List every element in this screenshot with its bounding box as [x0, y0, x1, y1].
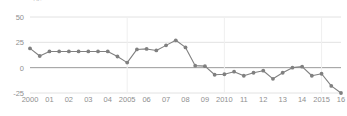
x-tick-label: 2010 [216, 95, 233, 104]
data-point [222, 72, 226, 76]
data-point [320, 72, 324, 76]
data-point [232, 70, 236, 74]
data-point [67, 50, 71, 54]
gridlines [30, 17, 341, 93]
data-point [310, 74, 314, 78]
plot-area [30, 17, 341, 93]
y-axis-labels: 50250-25 [0, 17, 26, 93]
x-axis-labels: 2000010203042005060708092010111213142015… [30, 95, 341, 111]
x-tick-label: 2015 [313, 95, 330, 104]
y-tick-label: 25 [16, 38, 24, 47]
line-chart: году, % 50250-25 20000102030420050607080… [0, 0, 347, 116]
data-point [213, 73, 217, 77]
data-point [271, 77, 275, 81]
data-point [154, 49, 158, 53]
data-point [116, 55, 120, 59]
data-point [145, 47, 149, 51]
x-tick-label: 01 [45, 95, 53, 104]
x-tick-label: 13 [279, 95, 287, 104]
data-point [106, 50, 110, 54]
data-point [329, 84, 333, 88]
data-point [86, 50, 90, 54]
x-tick-label: 12 [259, 95, 267, 104]
data-point [281, 71, 285, 75]
x-tick-label: 07 [162, 95, 170, 104]
data-point [96, 50, 100, 54]
x-tick-label: 08 [181, 95, 189, 104]
x-tick-label: 14 [298, 95, 306, 104]
x-tick-label: 2000 [22, 95, 39, 104]
data-point [203, 64, 207, 68]
data-point [252, 71, 256, 75]
data-point [57, 50, 61, 54]
data-point [193, 64, 197, 68]
y-tick-label: 50 [16, 13, 24, 22]
data-point [38, 54, 42, 58]
data-point [184, 46, 188, 50]
series-line [30, 17, 341, 93]
data-point [135, 48, 139, 52]
x-tick-label: 02 [65, 95, 73, 104]
x-tick-label: 2005 [119, 95, 136, 104]
chart-title: году, % [28, 0, 49, 2]
data-point [242, 74, 246, 78]
data-point [300, 65, 304, 69]
data-point [174, 38, 178, 42]
data-point [28, 47, 32, 51]
data-point [77, 50, 81, 54]
data-point [291, 66, 295, 70]
data-point [125, 61, 129, 65]
data-point [261, 69, 265, 73]
x-tick-label: 09 [201, 95, 209, 104]
x-tick-label: 04 [104, 95, 112, 104]
x-tick-label: 06 [142, 95, 150, 104]
series-1-markers [28, 38, 343, 94]
x-tick-label: 16 [337, 95, 345, 104]
data-point [48, 50, 52, 54]
x-tick-label: 03 [84, 95, 92, 104]
data-point [164, 43, 168, 47]
y-tick-label: 0 [20, 63, 24, 72]
x-tick-label: 11 [240, 95, 248, 104]
